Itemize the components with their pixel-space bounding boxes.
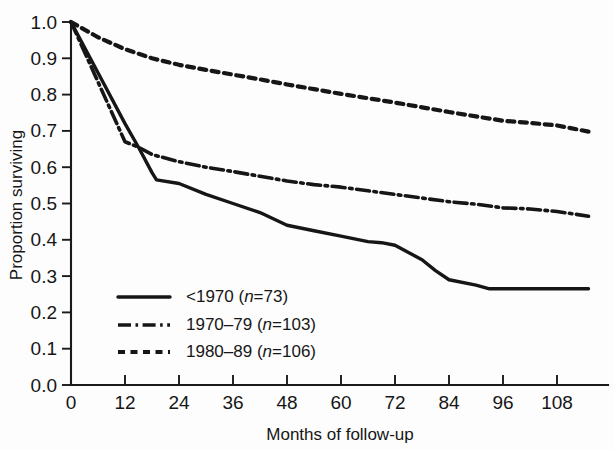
y-tick-label: 0.9 xyxy=(31,48,57,69)
y-axis-title: Proportion surviving xyxy=(7,130,26,280)
x-tick-label: 0 xyxy=(66,392,77,413)
chart-canvas: 0.00.10.20.30.40.50.60.70.80.91.0 012243… xyxy=(0,0,613,450)
y-tick-label: 0.4 xyxy=(31,229,58,250)
x-axis-title: Months of follow-up xyxy=(266,425,413,444)
survival-chart: 0.00.10.20.30.40.50.60.70.80.91.0 012243… xyxy=(0,0,613,450)
x-tick-label: 36 xyxy=(222,392,243,413)
series-line-2 xyxy=(71,22,589,216)
y-tick-label: 0.3 xyxy=(31,266,57,287)
series-line-1 xyxy=(71,22,589,289)
series-line-3 xyxy=(71,22,589,132)
legend-label-3: 1980–89 (n=106) xyxy=(186,342,316,361)
legend-label-2: 1970–79 (n=103) xyxy=(186,315,316,334)
x-tick-label: 108 xyxy=(541,392,573,413)
y-tick-label: 0.1 xyxy=(31,338,57,359)
y-tick-label: 0.0 xyxy=(31,375,57,396)
series-lines xyxy=(71,22,589,289)
y-axis-ticks: 0.00.10.20.30.40.50.60.70.80.91.0 xyxy=(31,12,71,396)
y-tick-label: 0.7 xyxy=(31,120,57,141)
x-tick-label: 72 xyxy=(384,392,405,413)
x-tick-label: 96 xyxy=(492,392,513,413)
y-tick-label: 0.2 xyxy=(31,302,57,323)
y-tick-label: 1.0 xyxy=(31,12,57,33)
legend-label-1: <1970 (n=73) xyxy=(186,287,288,306)
x-tick-label: 48 xyxy=(276,392,297,413)
x-tick-label: 12 xyxy=(114,392,135,413)
x-tick-label: 60 xyxy=(330,392,351,413)
x-tick-label: 24 xyxy=(168,392,190,413)
x-axis-ticks: 01224364860728496108 xyxy=(66,375,573,413)
y-tick-label: 0.5 xyxy=(31,193,57,214)
y-tick-label: 0.6 xyxy=(31,157,57,178)
y-tick-label: 0.8 xyxy=(31,84,57,105)
x-tick-label: 84 xyxy=(438,392,460,413)
chart-legend: <1970 (n=73)1970–79 (n=103)1980–89 (n=10… xyxy=(118,287,316,361)
